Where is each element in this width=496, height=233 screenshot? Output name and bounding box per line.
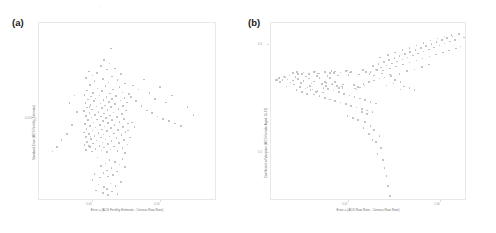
data-point [94, 135, 96, 137]
data-point [151, 112, 153, 114]
data-point [131, 122, 133, 124]
data-point [111, 167, 113, 169]
data-point [107, 122, 109, 124]
data-point [89, 106, 91, 108]
data-point [319, 73, 321, 75]
data-point [115, 95, 117, 97]
data-point [301, 91, 303, 93]
data-point [66, 133, 68, 135]
data-point [120, 100, 122, 102]
data-point [282, 79, 284, 81]
data-point [292, 80, 294, 82]
data-point [113, 133, 115, 135]
data-point [106, 130, 108, 132]
data-point [354, 96, 356, 98]
data-point [370, 125, 372, 127]
data-point [327, 75, 329, 77]
data-point [119, 164, 121, 166]
data-point [377, 153, 379, 155]
data-point [379, 78, 381, 80]
data-point [123, 139, 125, 141]
data-point [106, 96, 108, 98]
panel-b-plot-area [270, 22, 466, 200]
data-point [114, 161, 116, 163]
data-point [431, 43, 433, 45]
data-point [329, 77, 331, 79]
data-point [193, 114, 195, 116]
data-point [127, 144, 129, 146]
data-point [106, 170, 108, 172]
data-point [286, 86, 288, 88]
data-point [436, 41, 438, 43]
data-point [305, 76, 307, 78]
data-point [406, 70, 408, 72]
data-point [368, 133, 370, 135]
data-point [124, 83, 126, 85]
data-point [94, 173, 96, 175]
data-point [125, 110, 127, 112]
data-point [102, 192, 104, 194]
data-point [93, 100, 95, 102]
data-point [390, 75, 392, 77]
panel-a-x-tick-label-1: 0.10 [154, 202, 160, 206]
data-point [124, 97, 126, 99]
data-point [338, 87, 340, 89]
data-point [88, 145, 90, 147]
data-point [106, 69, 108, 71]
data-point [149, 92, 151, 94]
data-point [85, 102, 87, 104]
data-point [117, 193, 119, 195]
data-point [98, 111, 100, 113]
data-point [105, 139, 107, 141]
data-point [389, 195, 391, 197]
data-point [444, 36, 446, 38]
data-point [327, 88, 329, 90]
panel-a-x-tick-mark-1 [160, 200, 161, 202]
data-point [348, 74, 350, 76]
data-point [103, 186, 105, 188]
data-point [87, 99, 89, 101]
data-point [312, 89, 314, 91]
data-point [319, 95, 321, 97]
data-point [106, 188, 108, 190]
data-point [396, 61, 398, 63]
data-point [92, 92, 94, 94]
data-point [71, 124, 73, 126]
data-point [61, 139, 63, 141]
data-point [365, 71, 367, 73]
data-point [125, 131, 127, 133]
data-point [417, 53, 419, 55]
data-point [444, 43, 446, 45]
data-point [395, 66, 397, 68]
data-point [276, 79, 278, 81]
data-point [340, 102, 342, 104]
data-point [129, 137, 131, 139]
data-point [446, 37, 448, 39]
data-point [104, 126, 106, 128]
data-point [89, 84, 91, 86]
panel-a-x-axis-title: Error = (ACS Fertility Estimate - Census… [38, 208, 216, 212]
data-point [141, 105, 143, 107]
stray-speck [100, 6, 101, 7]
data-point [394, 57, 396, 59]
data-point [343, 93, 345, 95]
data-point [86, 141, 88, 143]
data-point [455, 48, 457, 50]
figure-container: (a) Standard Error (ACS Fertility Estima… [0, 0, 496, 233]
data-point [111, 191, 113, 193]
data-point [386, 175, 388, 177]
data-point [127, 123, 129, 125]
data-point [120, 181, 122, 183]
data-point [333, 72, 335, 74]
data-point [300, 82, 302, 84]
data-point [389, 68, 391, 70]
data-point [299, 86, 301, 88]
data-point [86, 90, 88, 92]
data-point [293, 84, 295, 86]
data-point [121, 113, 123, 115]
data-point [437, 38, 439, 40]
data-point [168, 120, 170, 122]
data-point [415, 49, 417, 51]
data-point [121, 134, 123, 136]
data-point [96, 119, 98, 121]
